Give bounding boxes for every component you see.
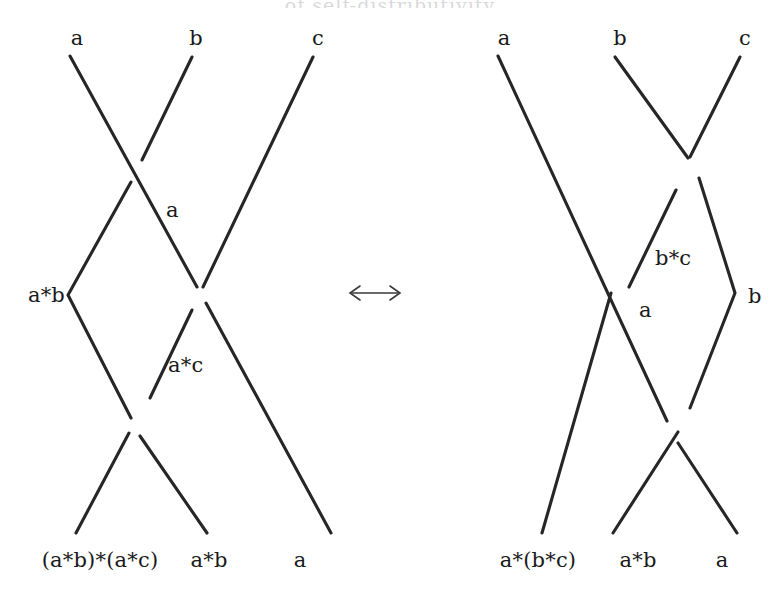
right-top-label-c: c bbox=[739, 28, 751, 49]
left-strand-c-seg1 bbox=[203, 57, 313, 287]
left-strand-b-seg1 bbox=[142, 57, 192, 160]
right-inner-label-b: b bbox=[748, 286, 762, 307]
right-inner-label-bc: b*c bbox=[655, 248, 691, 269]
diagram-stage: of self-distributivity bbox=[0, 0, 780, 607]
right-strand-c-seg1 bbox=[690, 57, 740, 157]
left-strand-a-seg2 bbox=[206, 303, 331, 533]
left-inner-label-a: a bbox=[166, 200, 179, 221]
left-bottom-label-abac: (a*b)*(a*c) bbox=[42, 550, 159, 571]
right-bottom-label-abc: a*(b*c) bbox=[500, 550, 577, 571]
right-top-label-a: a bbox=[498, 28, 511, 49]
right-strand-c-seg3 bbox=[542, 293, 611, 533]
left-top-label-c: c bbox=[312, 28, 324, 49]
right-strand-b-seg1 bbox=[615, 57, 688, 158]
right-braid-strands bbox=[498, 56, 740, 533]
left-bottom-label-a: a bbox=[294, 550, 307, 571]
right-strand-c-seg2 bbox=[629, 190, 676, 287]
left-bottom-label-ab: a*b bbox=[190, 550, 227, 571]
equivalence-arrow-group bbox=[350, 286, 400, 300]
left-strand-c-seg3 bbox=[76, 433, 129, 533]
left-inner-label-ab: a*b bbox=[28, 285, 65, 306]
left-braid-strands bbox=[68, 56, 331, 533]
left-strand-b-seg3 bbox=[140, 436, 207, 533]
left-strand-b-seg2 bbox=[68, 182, 131, 418]
right-strand-b-seg2 bbox=[690, 178, 735, 408]
right-bottom-label-ab: a*b bbox=[619, 550, 656, 571]
braid-canvas bbox=[0, 0, 780, 607]
right-strand-a-seg2 bbox=[678, 443, 737, 533]
left-inner-label-ac: a*c bbox=[168, 355, 203, 376]
right-strand-a-seg1 bbox=[498, 56, 667, 421]
right-inner-label-a: a bbox=[639, 300, 652, 321]
left-top-label-a: a bbox=[71, 28, 84, 49]
right-bottom-label-a: a bbox=[716, 550, 729, 571]
left-strand-a-seg1 bbox=[70, 56, 197, 287]
right-top-label-b: b bbox=[613, 28, 627, 49]
right-strand-b-seg3 bbox=[613, 432, 678, 533]
left-top-label-b: b bbox=[189, 28, 203, 49]
